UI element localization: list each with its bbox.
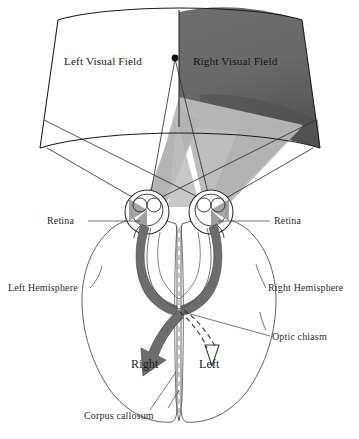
- right-hemisphere-label: Right Hemisphere: [268, 282, 344, 293]
- retina-right-label: Retina: [274, 215, 301, 226]
- right-visual-field-label: Right Visual Field: [193, 55, 278, 67]
- diagram-canvas: Left Visual Field Right Visual Field Ret…: [0, 0, 359, 439]
- right-arrow-label: Right: [131, 357, 159, 371]
- fixation-point-icon: [172, 55, 179, 62]
- left-hemisphere-label: Left Hemisphere: [8, 282, 78, 293]
- left-arrow-label: Left: [199, 357, 220, 371]
- visual-field-diagram: Left Visual Field Right Visual Field Ret…: [0, 0, 359, 439]
- retina-left-label: Retina: [47, 215, 74, 226]
- left-visual-field-label: Left Visual Field: [64, 55, 142, 67]
- optic-chiasm-label: Optic chiasm: [272, 331, 327, 342]
- left-visual-field-region: [40, 7, 179, 148]
- corpus-callosum-label: Corpus callosum: [84, 410, 154, 421]
